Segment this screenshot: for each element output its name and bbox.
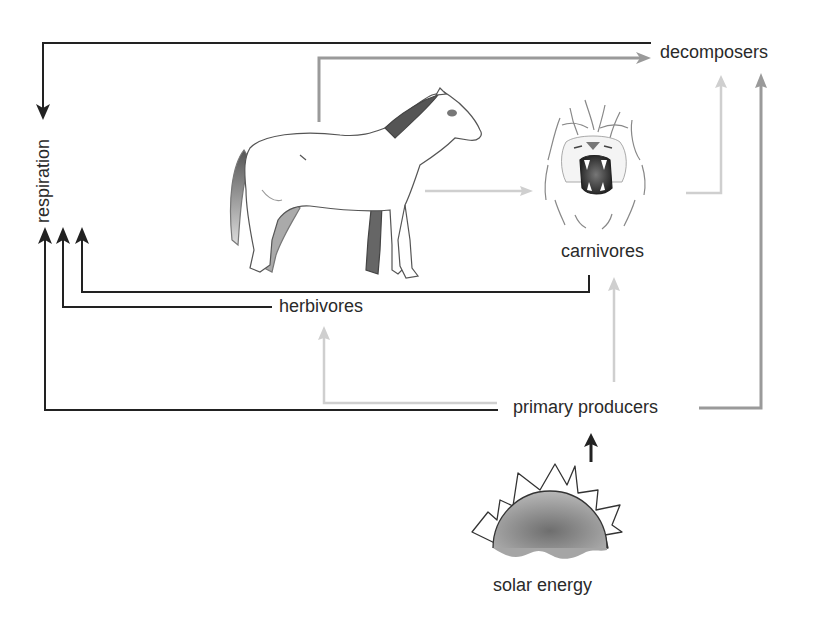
carnivores-label: carnivores	[561, 242, 644, 260]
herbivores-label: herbivores	[279, 297, 363, 315]
respiration-label: respiration	[34, 139, 52, 223]
decomposers-label: decomposers	[660, 43, 768, 61]
gray-flow-lines	[319, 52, 767, 408]
solar-energy-label: solar energy	[493, 576, 592, 594]
primary-producers-label: primary producers	[513, 398, 658, 416]
horse-illustration	[231, 88, 482, 278]
energy-flow-diagram: decomposers respiration carnivores herbi…	[0, 0, 831, 628]
lion-illustration	[545, 100, 645, 229]
sun-illustration	[472, 464, 622, 559]
diagram-canvas	[0, 0, 831, 628]
